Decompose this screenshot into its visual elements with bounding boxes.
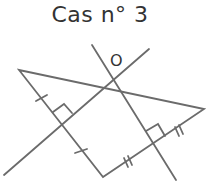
right-angle-mark-bc <box>146 124 165 136</box>
right-angle-mark-ac <box>53 104 72 113</box>
point-o-label: O <box>110 51 123 70</box>
triangle-abc <box>19 70 204 177</box>
perpendicular-bisector-bc <box>92 45 176 180</box>
geometry-diagram: O <box>0 0 222 190</box>
